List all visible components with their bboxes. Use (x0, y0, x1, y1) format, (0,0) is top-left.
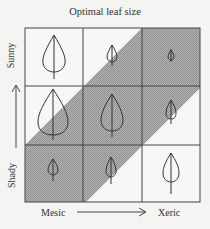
x-axis-label-mesic: Mesic (41, 207, 65, 218)
y-axis-arrow-icon (12, 85, 20, 148)
leaf-size-grid (0, 0, 210, 229)
x-axis-label-xeric: Xeric (158, 207, 180, 218)
y-axis-label-shady: Shady (6, 163, 17, 188)
x-axis-arrow-icon (77, 208, 146, 216)
y-axis-label-sunny: Sunny (5, 43, 16, 69)
